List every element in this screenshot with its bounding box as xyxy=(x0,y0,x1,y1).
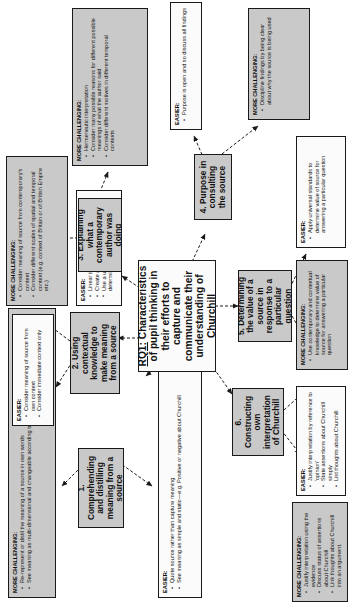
node-6-constructing-own-interpretation[interactable]: 6. Constructing own interpretation of Ch… xyxy=(232,388,284,456)
central-text: RQ1: Characteristics of pupil thinking i… xyxy=(138,265,216,367)
callout-heading: MORE CHALLENGING: xyxy=(76,13,82,161)
callout-list: Consider meaning of source from own cont… xyxy=(23,319,42,421)
node-label: 3. Explaining what a contemporary author… xyxy=(78,203,122,267)
callout-heading: EASIER: xyxy=(300,141,306,243)
callout-item: Consider meaning of source from contempo… xyxy=(17,161,30,295)
node-label: 2. Using contextual knowledge to make me… xyxy=(71,317,118,389)
callout-node4-easier: EASIER: Purpose is open and so discuss a… xyxy=(170,2,202,130)
callout-heading: MORE CHALLENGING: xyxy=(252,13,258,115)
callout-node4-more-challenging: MORE CHALLENGING: Discipline findings by… xyxy=(248,8,310,120)
callout-item: Discuss status of assertions about Churc… xyxy=(316,507,329,591)
callout-list: Consider meaning of source from contempo… xyxy=(17,161,49,301)
diagram-rotation-wrapper: RQ2 MORE CHALLENGING: Re-represent or di… xyxy=(0,0,354,606)
node-2-using-contextual-knowledge[interactable]: 2. Using contextual knowledge to make me… xyxy=(70,312,120,394)
callout-item: Link thoughts about Churchill into an ar… xyxy=(329,507,342,591)
callout-heading: EASIER: xyxy=(174,7,180,125)
callout-node5-easier: EASIER: Apply universal standards to det… xyxy=(296,136,346,248)
callout-list: Use contemporary and contextual knowledg… xyxy=(307,265,332,365)
callout-list: Justify interpretation by reference to '… xyxy=(307,391,339,491)
callout-list: Justify interpretation using the evidenc… xyxy=(303,507,342,597)
central-rq-label: RQ1: xyxy=(138,342,148,366)
callout-item: State assertions about Churchill simply xyxy=(320,391,333,485)
node-5-determining-value-of-source[interactable]: 5. Determining the value of a source in … xyxy=(238,270,292,342)
node-label: 1. Comprehending and distilling meaning … xyxy=(78,453,124,523)
central-rq-text: Characteristics of pupil thinking in the… xyxy=(138,266,216,362)
callout-item: Use contemporary and contextual knowledg… xyxy=(307,265,332,359)
callout-node6-more-challenging: MORE CHALLENGING: Justify interpretation… xyxy=(292,502,348,602)
callout-item: Consider meaning of source from own cont… xyxy=(23,319,36,415)
concept-map-canvas: RQ2 MORE CHALLENGING: Re-represent or di… xyxy=(0,0,354,606)
callout-item: List thoughts about Churchill xyxy=(333,391,339,485)
callout-list: Apply universal standards to determine v… xyxy=(307,141,326,243)
node-4-purpose-in-consulting-source[interactable]: 4. Purpose in consulting the source xyxy=(194,154,232,220)
callout-node6-easier: EASIER: Justify interpretation by refere… xyxy=(296,386,346,496)
callout-node2-more-challenging: MORE CHALLENGING: Consider meaning of so… xyxy=(6,156,68,306)
callout-list: Purpose is open and so discuss all findi… xyxy=(181,7,187,125)
callout-item: Consider many possible reasons for diffe… xyxy=(90,13,103,155)
callout-item: Purpose is open and so discuss all findi… xyxy=(181,7,187,119)
callout-item: Consider different scales of spatial and… xyxy=(30,161,49,295)
callout-heading: MORE CHALLENGING: xyxy=(300,265,306,365)
callout-item: Discipline findings by being clear about… xyxy=(259,13,272,109)
callout-item: Hermeneutic interpretation xyxy=(83,13,89,155)
callout-item: Consider different motives in different … xyxy=(103,13,116,155)
callout-item: Apply universal standards to determine v… xyxy=(307,141,326,237)
callout-heading: EASIER: xyxy=(300,391,306,491)
callout-heading: MORE CHALLENGING: xyxy=(296,507,302,597)
callout-list: Discipline findings by being clear about… xyxy=(259,13,272,115)
callout-item: Justify interpretation using the evidenc… xyxy=(303,507,316,591)
callout-list: Hermeneutic interpretation Consider many… xyxy=(83,13,115,161)
callout-item: Consider immediate context only xyxy=(36,319,42,415)
callout-heading: MORE CHALLENGING: xyxy=(10,161,16,301)
node-label: 5. Determining the value of a source in … xyxy=(238,275,292,337)
central-research-question-rq1[interactable]: RQ1: Characteristics of pupil thinking i… xyxy=(138,260,216,372)
node-1-comprehending-distilling[interactable]: 1. Comprehending and distilling meaning … xyxy=(78,448,124,528)
callout-node5-more-challenging: MORE CHALLENGING: Use contemporary and c… xyxy=(296,260,348,370)
callout-node3-more-challenging: MORE CHALLENGING: Hermeneutic interpreta… xyxy=(72,8,148,166)
callout-node2-easier: EASIER: Consider meaning of source from … xyxy=(12,314,54,426)
callout-item: Justify interpretation by reference to '… xyxy=(307,391,320,485)
node-label: 4. Purpose in consulting the source xyxy=(199,159,227,215)
node-3-explaining-contemporary-author[interactable]: 3. Explaining what a contemporary author… xyxy=(78,198,122,272)
node-label: 6. Constructing own interpretation of Ch… xyxy=(234,393,281,451)
callout-heading: EASIER: xyxy=(16,319,22,421)
